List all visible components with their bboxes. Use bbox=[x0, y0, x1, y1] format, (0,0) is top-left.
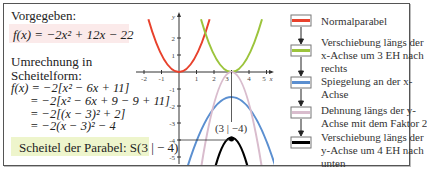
legend-item-3-line-1: Spiegelung an der x- bbox=[321, 75, 412, 87]
legend-item-1-line-1: Normalparabel bbox=[321, 15, 387, 27]
arrow-down-icon bbox=[299, 71, 304, 76]
x-axis-label: x bbox=[268, 75, 273, 83]
y-tick-label: -4 bbox=[169, 137, 175, 145]
x-tick-label: 4 bbox=[247, 75, 251, 83]
legend-item-4-line-2: Achse mit dem Faktor 2 bbox=[321, 117, 427, 129]
legend-item-5-line-1: Verschiebung längs der bbox=[321, 131, 424, 143]
legend-item-2-line-2: x-Achse um 3 EH nach bbox=[321, 49, 424, 61]
curve-shift-down bbox=[215, 138, 249, 171]
legend-item-5-line-3: unten bbox=[321, 157, 345, 169]
y-tick-label: 2 bbox=[172, 35, 176, 43]
curve-shift-right bbox=[201, 19, 262, 72]
y-tick-label: -2 bbox=[169, 103, 175, 111]
legend-item-2-line-3: rechts bbox=[321, 62, 347, 74]
x-tick-label: -2 bbox=[141, 75, 147, 83]
y-tick-label: -5 bbox=[169, 154, 175, 162]
y-axis-arrow-icon bbox=[177, 12, 181, 17]
arrow-down-icon bbox=[299, 39, 304, 44]
x-axis-arrow-icon bbox=[269, 70, 274, 74]
arrow-down-icon bbox=[299, 101, 304, 106]
vertex-label: (3 | −4) bbox=[215, 122, 248, 135]
x-tick-label: -1 bbox=[159, 75, 165, 83]
arrow-down-icon bbox=[299, 131, 304, 136]
y-tick-label: 1 bbox=[172, 52, 176, 60]
x-tick-label: 1 bbox=[195, 75, 199, 83]
x-tick-label: 2 bbox=[212, 75, 216, 83]
y-axis-label: y bbox=[171, 13, 176, 21]
vertex-point-icon bbox=[229, 137, 234, 142]
y-tick-label: -3 bbox=[169, 120, 175, 128]
y-tick-label: -1 bbox=[169, 86, 175, 94]
legend-item-4-line-1: Dehnung längs der y- bbox=[321, 104, 416, 116]
legend-item-3-line-2: Achse bbox=[321, 88, 349, 100]
legend-item-2-line-1: Verschiebung längs der bbox=[321, 36, 424, 48]
legend-item-5-line-2: y-Achse um 4 EH nach bbox=[321, 144, 424, 156]
x-tick-label: 5 bbox=[262, 75, 266, 83]
